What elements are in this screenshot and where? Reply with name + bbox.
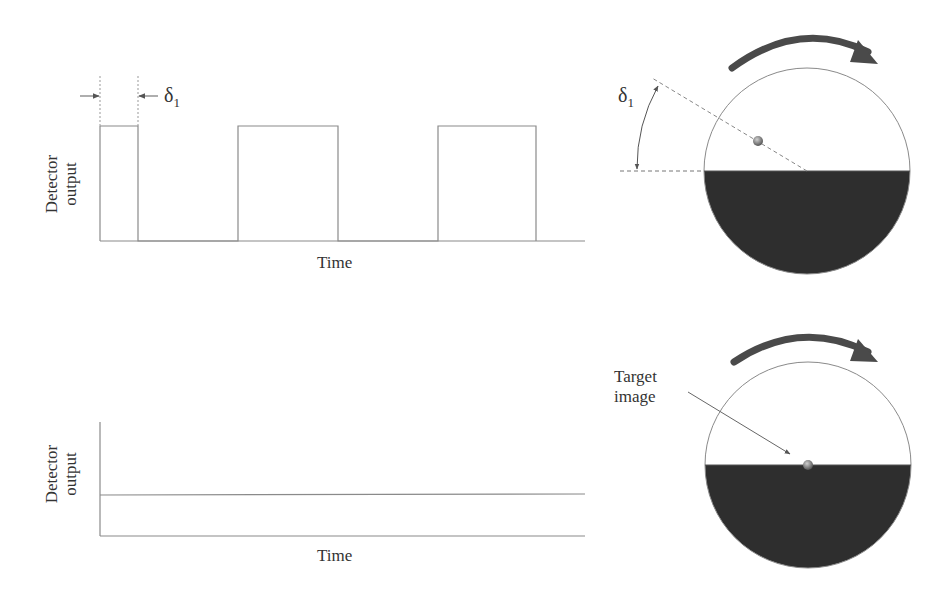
target-image-dot [753,136,763,146]
top-x-axis-label: Time [317,253,352,273]
delta-angle-arc [637,86,658,169]
top-pulse-waveform [100,126,536,241]
bottom-constant-signal [100,494,585,495]
rotation-arrow-icon [734,337,868,362]
diagram-canvas [0,0,944,606]
rotation-arrow-icon [732,38,868,68]
bottom-reticle [688,337,911,568]
bottom-y-axis-label: Detector output [42,424,82,524]
bottom-x-axis-label: Time [317,546,352,566]
reticle-angle-label: δ1 [618,84,634,111]
target-callout-arrow [688,392,790,454]
target-image-callout: Target image [614,367,657,407]
top-delta-label: δ1 [164,84,180,111]
reticle-dark-half [704,171,910,274]
target-angle-line [652,78,807,171]
reticle-dark-half [705,465,911,568]
top-y-axis-label: Detector output [42,134,82,234]
target-image-dot [803,460,813,470]
top-detector-chart [80,76,585,241]
top-reticle [620,38,910,274]
bottom-detector-chart [100,422,585,536]
